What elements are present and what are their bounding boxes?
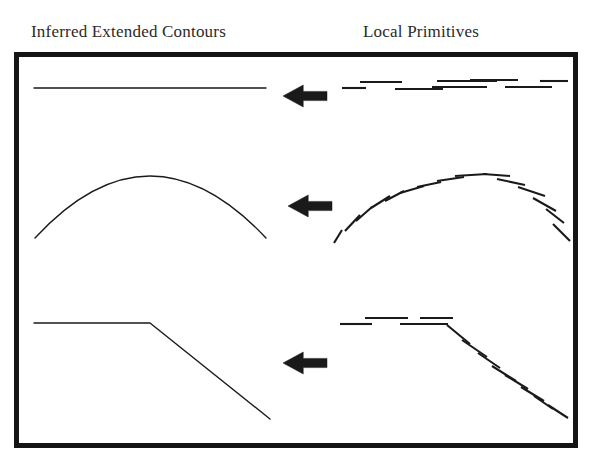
column-label-local-primitives: Local Primitives	[363, 22, 479, 42]
column-label-inferred-extended-contours: Inferred Extended Contours	[31, 22, 226, 42]
figure-container: Inferred Extended Contours Local Primiti…	[0, 0, 594, 471]
figure-frame	[14, 52, 578, 448]
